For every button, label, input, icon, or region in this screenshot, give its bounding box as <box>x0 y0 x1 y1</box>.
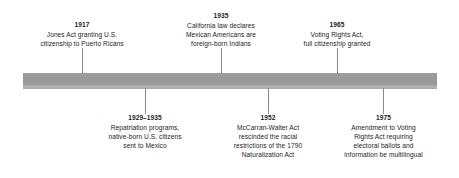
event-year: 1965 <box>282 20 392 29</box>
tick-mark-1935 <box>221 48 222 74</box>
timeline-event-1929-1935: 1929–1935 Repatriation programs, native-… <box>78 113 212 150</box>
event-description: Repatriation programs, native-born U.S. … <box>78 123 212 150</box>
event-description: Voting Rights Act, full citizenship gran… <box>282 30 392 48</box>
timeline-event-1917: 1917 Jones Act granting U.S. citizenship… <box>12 20 152 48</box>
tick-mark-1965 <box>337 48 338 74</box>
event-year: 1952 <box>206 113 330 122</box>
event-year: 1935 <box>155 11 287 20</box>
timeline-bar <box>23 73 437 89</box>
event-description: California law declares Mexican American… <box>155 21 287 48</box>
tick-mark-1952 <box>268 88 269 114</box>
timeline-event-1935: 1935 California law declares Mexican Ame… <box>155 11 287 48</box>
timeline-event-1965: 1965 Voting Rights Act, full citizenship… <box>282 20 392 48</box>
event-description: McCarran-Walter Act rescinded the racial… <box>206 123 330 159</box>
timeline-figure: 1917 Jones Act granting U.S. citizenship… <box>0 0 459 178</box>
event-description: Jones Act granting U.S. citizenship to P… <box>12 30 152 48</box>
timeline-event-1975: 1975 Amendment to Voting Rights Act requ… <box>319 113 448 159</box>
event-year: 1975 <box>319 113 448 122</box>
event-year: 1917 <box>12 20 152 29</box>
event-description: Amendment to Voting Rights Act requiring… <box>319 123 448 159</box>
tick-mark-1975 <box>383 88 384 114</box>
event-year: 1929–1935 <box>78 113 212 122</box>
timeline-event-1952: 1952 McCarran-Walter Act rescinded the r… <box>206 113 330 159</box>
tick-mark-1929-1935 <box>145 88 146 114</box>
tick-mark-1917 <box>82 48 83 74</box>
